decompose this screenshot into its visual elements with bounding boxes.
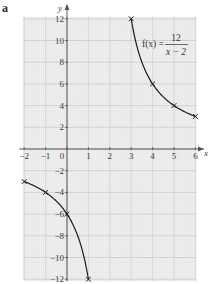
y-axis-label: y [57, 3, 62, 13]
equation-denominator: x − 2 [165, 47, 186, 57]
y-tick-label: 8 [60, 57, 65, 67]
y-tick-label: −6 [54, 209, 64, 219]
x-tick-label: 5 [172, 151, 177, 161]
y-tick-label: 10 [55, 36, 65, 46]
y-tick-label: −4 [54, 187, 64, 197]
y-tick-label: 4 [60, 101, 65, 111]
equation-lhs: f(x) = [142, 39, 164, 50]
equation-numerator: 12 [171, 33, 181, 43]
x-tick-label: 1 [86, 151, 91, 161]
x-tick-label: 2 [108, 151, 113, 161]
y-tick-label: −2 [54, 166, 64, 176]
x-tick-label: 3 [129, 151, 134, 161]
y-tick-label: 12 [55, 14, 64, 24]
y-tick-label: 6 [60, 79, 65, 89]
x-tick-label: 4 [150, 151, 155, 161]
y-tick-label: −8 [54, 231, 64, 241]
y-tick-label: −10 [50, 253, 65, 263]
x-tick-label: 6 [193, 151, 198, 161]
x-tick-label: 0 [60, 151, 65, 161]
x-axis-label: x [203, 148, 208, 158]
x-tick-label: −2 [19, 151, 29, 161]
x-tick-label: −1 [41, 151, 51, 161]
y-axis-arrow-icon [65, 4, 70, 10]
y-tick-label: 2 [60, 122, 65, 132]
chart: −2−1012345612108642−2−4−6−8−10−12 f(x) =… [0, 0, 212, 284]
y-tick-label: −12 [50, 274, 64, 284]
